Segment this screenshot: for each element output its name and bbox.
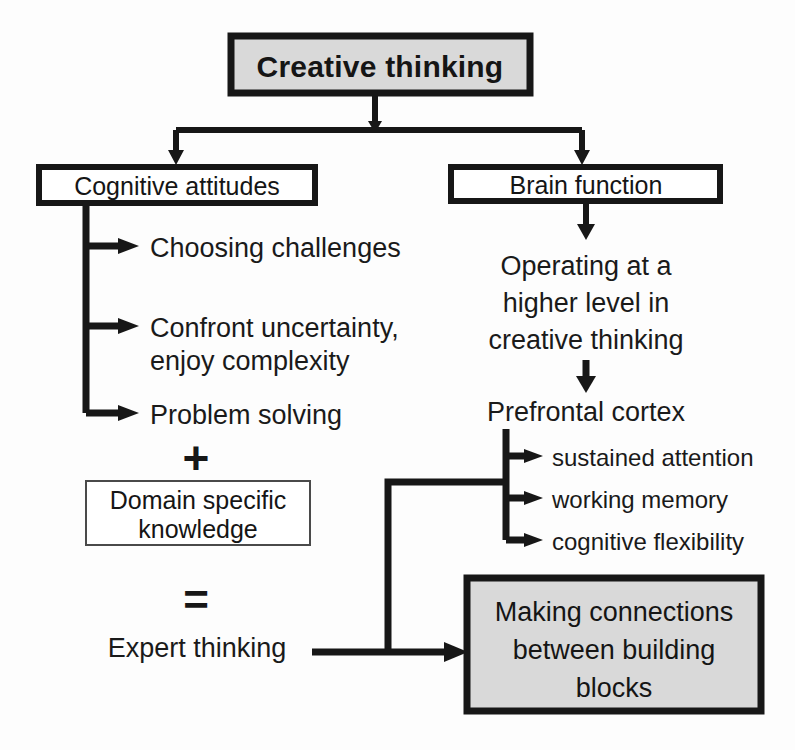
- cortex-function-label-2: working memory: [551, 486, 728, 513]
- node-brain-function[interactable]: Brain function: [451, 167, 720, 201]
- brain-function-label: Brain function: [510, 171, 663, 199]
- cortex-function-label-3: cognitive flexibility: [552, 528, 744, 555]
- flowchart-diagram: Creative thinking Cognitive attitudes Br…: [0, 0, 795, 750]
- node-cognitive-attitudes[interactable]: Cognitive attitudes: [39, 167, 315, 203]
- root-node-creative-thinking[interactable]: Creative thinking: [231, 36, 530, 93]
- plus-operator: +: [183, 432, 210, 484]
- node-domain-specific-knowledge[interactable]: Domain specific knowledge: [86, 481, 310, 545]
- making-connections-line2: between building: [513, 635, 716, 665]
- cortex-function-1-arrowhead: [524, 449, 543, 463]
- brain-process-line3: creative thinking: [488, 325, 683, 355]
- node-making-connections[interactable]: Making connections between building bloc…: [467, 578, 761, 711]
- brain-function-stem-connector: [577, 201, 595, 240]
- cognitive-item-label-1: Choosing challenges: [150, 233, 401, 263]
- cognitive-attitudes-label: Cognitive attitudes: [74, 172, 280, 200]
- flowchart-canvas: Creative thinking Cognitive attitudes Br…: [0, 0, 795, 750]
- cognitive-attitudes-connectors: [86, 203, 139, 421]
- cognitive-item-label-3: Problem solving: [150, 400, 342, 430]
- brain-process-to-cortex-connector: [576, 360, 596, 393]
- domain-knowledge-label-line1: Domain specific: [110, 486, 286, 514]
- cortex-function-label-1: sustained attention: [552, 444, 753, 471]
- root-fork-connector: [168, 93, 590, 165]
- cognitive-item-1-arrowhead: [118, 238, 139, 254]
- expert-thinking-label: Expert thinking: [108, 633, 287, 663]
- cognitive-item-2-arrowhead: [118, 318, 139, 334]
- equals-operator: =: [183, 575, 209, 624]
- cognitive-item-3-arrowhead: [118, 405, 139, 421]
- right-branch-arrowhead: [574, 150, 590, 165]
- making-connections-line3: blocks: [576, 673, 653, 703]
- brain-function-stem-arrowhead: [577, 224, 595, 240]
- cortex-function-3-arrowhead: [524, 533, 543, 547]
- domain-knowledge-label-line2: knowledge: [138, 515, 258, 543]
- brain-process-line1: Operating at a: [500, 251, 672, 281]
- left-branch-arrowhead: [168, 150, 184, 165]
- making-connections-line1: Making connections: [495, 597, 734, 627]
- cognitive-item-label-2: Confront uncertainty,: [150, 313, 399, 343]
- cortex-function-2-arrowhead: [524, 491, 543, 505]
- root-node-label: Creative thinking: [257, 50, 504, 83]
- prefrontal-cortex-label: Prefrontal cortex: [487, 397, 686, 427]
- prefrontal-cortex-arrowhead: [576, 376, 596, 393]
- cognitive-item-label-2-line2: enjoy complexity: [150, 346, 350, 376]
- brain-process-line2: higher level in: [503, 288, 670, 318]
- prefrontal-cortex-connectors: [506, 429, 543, 547]
